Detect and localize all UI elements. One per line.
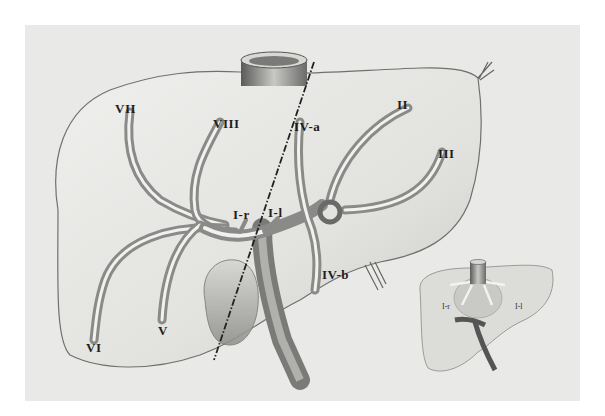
label-segment-viii: VIII xyxy=(213,117,240,130)
label-segment-il: I-l xyxy=(268,206,283,219)
label-segment-ivb: IV-b xyxy=(322,268,349,281)
inset-label-il: I-l xyxy=(515,303,523,311)
label-segment-vii: VII xyxy=(115,102,136,115)
inferior-vena-cava-top xyxy=(241,52,307,86)
inset-label-ir: I-r xyxy=(442,303,450,311)
label-segment-ii: II xyxy=(397,98,408,111)
label-segment-v: V xyxy=(158,324,168,337)
label-segment-vi: VI xyxy=(86,341,101,354)
gallbladder xyxy=(204,260,258,345)
label-segment-ir: I-r xyxy=(233,208,250,221)
ligament-right xyxy=(478,62,494,80)
caudate-inset xyxy=(420,260,553,372)
ligament-teres xyxy=(365,262,386,290)
label-segment-iii: III xyxy=(438,147,455,160)
label-segment-iva: IV-a xyxy=(294,120,320,133)
